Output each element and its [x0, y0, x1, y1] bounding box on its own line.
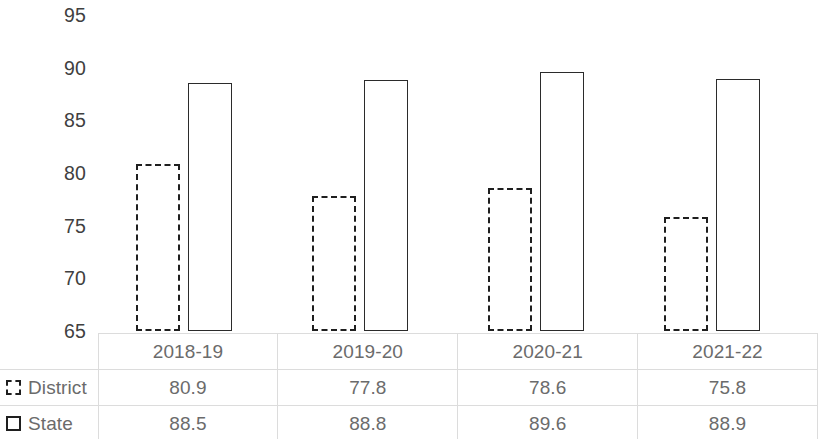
table-row-state: State 88.5 88.8 89.6 88.9: [0, 406, 818, 439]
district-value-2020-21: 78.6: [458, 370, 638, 406]
chart-data-table: 2018-19 2019-20 2020-21 2021-22 District…: [0, 333, 818, 439]
state-value-2019-20: 88.8: [278, 406, 458, 439]
table-header-row: 2018-19 2019-20 2020-21 2021-22: [0, 334, 818, 370]
bar-state-2021-22: [716, 79, 760, 331]
legend-cell-state: State: [0, 406, 98, 439]
table-row-district: District 80.9 77.8 78.6 75.8: [0, 370, 818, 406]
chart-page: 95 90 85 80 75 70 65 2018-19 2019-20 202…: [0, 0, 818, 439]
column-header-2018-19: 2018-19: [98, 334, 278, 370]
district-value-2018-19: 80.9: [98, 370, 278, 406]
bar-state-2018-19: [188, 83, 232, 331]
district-swatch-icon: [6, 380, 21, 395]
state-value-2020-21: 89.6: [458, 406, 638, 439]
bar-state-2020-21: [540, 72, 584, 331]
bar-state-2019-20: [364, 80, 408, 331]
bar-district-2020-21: [488, 188, 532, 331]
district-value-2021-22: 75.8: [638, 370, 818, 406]
bars-layer: [0, 0, 818, 334]
legend-cell-district: District: [0, 370, 98, 406]
column-header-2021-22: 2021-22: [638, 334, 818, 370]
bar-district-2018-19: [136, 164, 180, 331]
column-header-2020-21: 2020-21: [458, 334, 638, 370]
bar-district-2019-20: [312, 196, 356, 331]
legend-label-district: District: [28, 377, 87, 399]
plot-area: 95 90 85 80 75 70 65: [0, 0, 818, 334]
bar-district-2021-22: [664, 217, 708, 331]
table-corner-cell: [0, 334, 98, 370]
state-value-2021-22: 88.9: [638, 406, 818, 439]
state-swatch-icon: [6, 416, 21, 431]
state-value-2018-19: 88.5: [98, 406, 278, 439]
district-value-2019-20: 77.8: [278, 370, 458, 406]
column-header-2019-20: 2019-20: [278, 334, 458, 370]
legend-label-state: State: [28, 413, 73, 435]
